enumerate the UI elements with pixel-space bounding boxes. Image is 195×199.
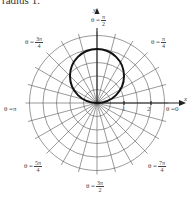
grid-ray — [35, 103, 97, 139]
grid-ray — [46, 103, 97, 154]
x-axis-label: x — [184, 95, 187, 103]
grid-ray — [78, 34, 97, 103]
grid-ray — [97, 103, 116, 172]
angle-label-pi: θ = π — [4, 106, 17, 113]
y-axis-label: y — [93, 6, 96, 14]
grid-ray — [97, 67, 159, 103]
grid-ray — [46, 52, 97, 103]
grid-ray — [97, 103, 166, 122]
tick-label-2: 2 — [147, 105, 151, 113]
grid-ray — [97, 52, 148, 103]
angle-label-5pi-over-4: θ = 5π4 — [24, 160, 42, 174]
angle-label-0: θ = 0 — [166, 106, 179, 113]
angle-label-3pi-over-2: θ = 3π2 — [86, 180, 104, 194]
grid-ray — [97, 34, 116, 103]
tick-label-1: 1 — [122, 105, 126, 113]
angle-label-3pi-over-4: θ = 3π4 — [25, 36, 43, 50]
grid-ray — [61, 103, 97, 165]
grid-ray — [28, 103, 97, 122]
grid-ray — [35, 67, 97, 103]
grid-ray — [78, 103, 97, 172]
angle-label-pi-over-2: θ = π2 — [91, 14, 106, 28]
grid-ray — [97, 103, 133, 165]
angle-label-7pi-over-4: θ = 7π4 — [148, 160, 166, 174]
angle-label-pi-over-4: θ = π4 — [151, 36, 166, 50]
